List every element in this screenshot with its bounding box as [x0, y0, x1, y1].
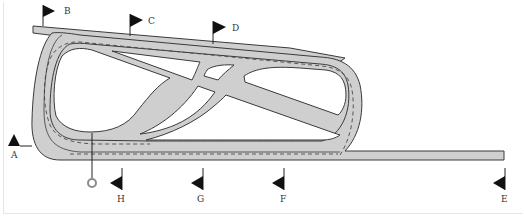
label-c: C [148, 16, 155, 26]
marker-a: A [8, 134, 32, 160]
winning-post-circle [88, 179, 96, 187]
flag-a-icon [8, 134, 20, 146]
marker-f: F [272, 168, 286, 204]
flag-h-icon [110, 176, 122, 190]
label-e: E [501, 194, 508, 204]
flag-b-icon [43, 5, 55, 17]
flag-g-icon [191, 176, 203, 190]
marker-b: B [43, 5, 71, 26]
label-h: H [117, 194, 125, 204]
label-f: F [280, 194, 286, 204]
label-b: B [64, 6, 71, 16]
label-a: A [10, 150, 18, 160]
marker-e: E [493, 168, 508, 204]
marker-c: C [130, 14, 155, 36]
flag-d-icon [213, 21, 226, 34]
marker-h: H [110, 168, 125, 204]
label-g: G [197, 194, 204, 204]
label-d: D [232, 23, 239, 33]
flag-e-icon [493, 176, 505, 190]
racecourse-diagram: A B C D H G F E [0, 0, 524, 216]
marker-g: G [191, 168, 204, 204]
marker-d: D [213, 21, 239, 44]
flag-f-icon [272, 176, 284, 190]
flag-c-icon [130, 14, 143, 27]
